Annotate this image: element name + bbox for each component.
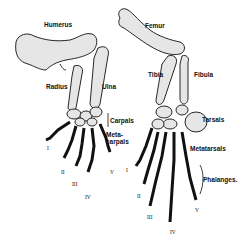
carpal-bones <box>67 107 102 126</box>
forelimb-digit-V: V <box>110 170 114 176</box>
hindlimb-digit-I: I <box>126 168 128 174</box>
label-tibia: Tibia <box>148 72 163 79</box>
femur-bone <box>119 9 185 55</box>
label-humerus: Humerus <box>44 22 72 29</box>
fibula-bone <box>180 55 189 104</box>
hindlimb-digit-IV: IV <box>170 230 176 236</box>
tarsal-bones <box>152 105 207 132</box>
forelimb-digits <box>46 122 110 172</box>
forelimb-digit-IV: IV <box>85 195 91 201</box>
hindlimb-digits <box>136 128 196 222</box>
label-phalanges: Phalanges. <box>203 177 237 184</box>
forelimb-digit-III: III <box>72 182 78 188</box>
label-femur: Femur <box>145 23 165 30</box>
ulna-bone <box>90 47 109 109</box>
label-ulna: Ulna <box>102 84 116 91</box>
label-metatarsals: Metatarsals <box>190 146 226 153</box>
label-carpals: Carpals <box>110 118 134 125</box>
tibia-bone <box>156 55 177 104</box>
hindlimb-digit-V: V <box>195 208 199 214</box>
radius-bone <box>68 65 83 111</box>
label-radius: Radius <box>46 84 68 91</box>
humerus-bone <box>16 34 97 70</box>
label-tarsals: Tarsals <box>202 117 224 124</box>
label-metacarpals-line2: carpals <box>106 139 129 146</box>
label-fibula: Fibula <box>194 72 213 79</box>
hindlimb-digit-III: III <box>147 215 153 221</box>
forelimb-digit-I: I <box>47 146 49 152</box>
limb-skeleton-diagram: Humerus Radius Ulna Carpals Meta- carpal… <box>0 0 249 246</box>
forelimb-digit-II: II <box>61 170 65 176</box>
hindlimb-digit-II: II <box>137 194 141 200</box>
